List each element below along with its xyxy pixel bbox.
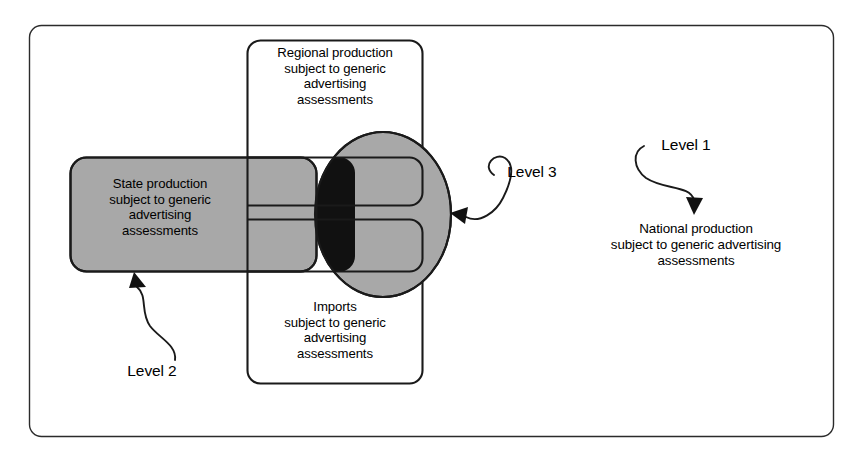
imports-label: Imports subject to generic advertising a… <box>247 299 423 361</box>
level-3-label: Level 3 <box>492 163 572 181</box>
level-1-label: Level 1 <box>646 136 726 154</box>
regional-production-label: Regional production subject to generic a… <box>247 45 423 107</box>
national-production-label: National production subject to generic a… <box>575 221 817 268</box>
diagram-root: Regional production subject to generic a… <box>0 0 859 458</box>
level-2-label: Level 2 <box>112 362 192 380</box>
state-production-label: State production subject to generic adve… <box>72 176 248 238</box>
